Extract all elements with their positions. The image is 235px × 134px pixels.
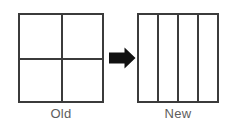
right-arrow-icon [109, 47, 136, 69]
old-square-figure [18, 13, 104, 103]
diagram-canvas: Old New [0, 0, 235, 134]
new-vertical-divider-3 [197, 15, 199, 101]
old-horizontal-divider [20, 58, 102, 60]
old-square-grid [20, 15, 102, 101]
new-square-figure [137, 13, 219, 103]
old-figure-label: Old [18, 106, 104, 121]
new-vertical-divider-2 [177, 15, 179, 101]
new-vertical-divider-1 [157, 15, 159, 101]
new-square-grid [139, 15, 217, 101]
new-figure-label: New [137, 106, 219, 121]
